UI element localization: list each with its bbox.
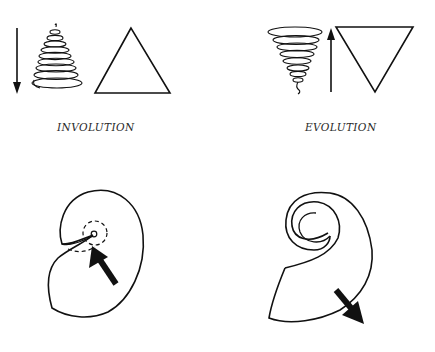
figure-canvas xyxy=(0,0,435,352)
upright-triangle-icon xyxy=(95,28,170,93)
involution-label: INVOLUTION xyxy=(57,121,135,133)
upright-cone-spiral-icon xyxy=(32,24,82,88)
inverted-triangle-icon xyxy=(336,27,413,92)
involution-evolution-figure: INVOLUTION EVOLUTION xyxy=(0,0,435,352)
evolution-up-arrow-icon xyxy=(327,28,335,92)
inverted-cone-spiral-icon xyxy=(268,27,322,94)
inward-arrow-icon xyxy=(89,246,116,284)
involution-down-arrow-icon xyxy=(13,28,21,94)
evolution-label: EVOLUTION xyxy=(305,121,376,133)
outward-arrow-icon xyxy=(336,290,364,324)
